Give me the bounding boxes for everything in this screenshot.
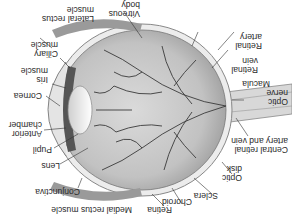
anterior-chamber-label: Anteriorchamber xyxy=(9,120,42,138)
retinal-artery-label: Retinalartery xyxy=(235,32,262,50)
macula-label: Macula xyxy=(242,79,270,88)
vitreous-body-label: Vitreousbody xyxy=(109,0,140,18)
optic-disk-label: Opticdisk xyxy=(222,164,242,182)
lateral-rectus-label: Lateral rectusmuscle xyxy=(42,5,94,23)
sclera-label: Sclera xyxy=(194,191,218,200)
medial-rectus-label: Medial rectus muscle xyxy=(51,205,132,214)
lens-label: Lens xyxy=(41,161,60,170)
optic-nerve-label: Opticnerve xyxy=(267,88,289,106)
pupil-label: Pupil xyxy=(33,145,52,154)
cornea-label: Cornea xyxy=(14,91,42,100)
eye-diagram: Vitreousbody Lateral rectusmuscle Ciliar… xyxy=(0,0,292,218)
ciliary-muscle-label: Ciliarymuscle xyxy=(31,40,58,58)
choroid-label: Choroid xyxy=(162,197,192,206)
iris-muscle-label: Irismuscle xyxy=(21,66,48,84)
central-retinal-label: Central retinalartery and vein xyxy=(231,136,288,154)
conjunctiva-label: Conjunctiva xyxy=(35,187,80,196)
lens-shape xyxy=(68,86,92,134)
retinal-vein-label: Retinalvein xyxy=(231,56,258,74)
